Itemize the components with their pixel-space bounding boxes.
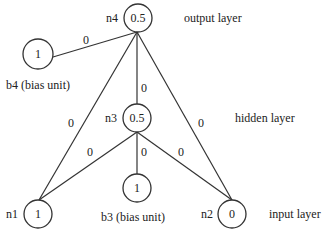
input-layer-label: input layer bbox=[269, 207, 321, 221]
weight-n1-n4: 0 bbox=[68, 116, 74, 130]
node-n1-label: n1 bbox=[6, 207, 18, 221]
weight-n2-n4: 0 bbox=[198, 116, 204, 130]
edge-n1-n3 bbox=[39, 132, 137, 200]
output-layer-label: output layer bbox=[184, 11, 242, 25]
node-n3-label: n3 bbox=[105, 111, 117, 125]
node-n4-label: n4 bbox=[106, 11, 118, 25]
weight-b4-n4: 0 bbox=[83, 33, 89, 47]
node-n4-value: 0.5 bbox=[131, 11, 146, 25]
node-b4-label: b4 (bias unit) bbox=[6, 78, 70, 92]
hidden-layer-label: hidden layer bbox=[235, 111, 295, 125]
weight-n3-n4: 0 bbox=[141, 81, 147, 95]
node-n2-value: 0 bbox=[229, 207, 235, 221]
neural-network-diagram: 0.5 1 0.5 1 1 0 n4 b4 (bias unit) n3 b3 … bbox=[0, 0, 331, 236]
weight-b3-n3: 0 bbox=[141, 145, 147, 159]
node-b4-value: 1 bbox=[35, 47, 41, 61]
weight-n1-n3: 0 bbox=[87, 145, 93, 159]
weight-n2-n3: 0 bbox=[178, 145, 184, 159]
node-n3-value: 0.5 bbox=[130, 111, 145, 125]
node-b3-label: b3 (bias unit) bbox=[101, 210, 165, 224]
node-n1-value: 1 bbox=[35, 207, 41, 221]
node-n2-label: n2 bbox=[201, 207, 213, 221]
node-b3-value: 1 bbox=[134, 181, 140, 195]
